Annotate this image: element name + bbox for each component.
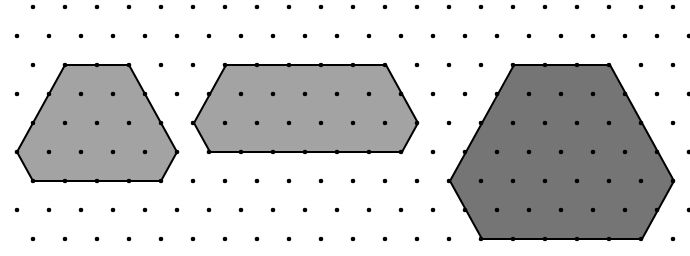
grid-dot (623, 208, 628, 213)
grid-dot (511, 179, 516, 184)
grid-dot (15, 150, 20, 155)
grid-dot (335, 150, 340, 155)
grid-dot (239, 208, 244, 213)
grid-dot (383, 63, 388, 68)
grid-dot (47, 208, 52, 213)
grid-dot (527, 150, 532, 155)
grid-dot (255, 121, 260, 126)
grid-dot (127, 5, 132, 10)
grid-dot (495, 208, 500, 213)
grid-dot (527, 208, 532, 213)
grid-dot (287, 5, 292, 10)
grid-dot (111, 150, 116, 155)
grid-dot (383, 5, 388, 10)
grid-dot (255, 63, 260, 68)
grid-dot (159, 5, 164, 10)
grid-dot (191, 63, 196, 68)
grid-dot (399, 92, 404, 97)
grid-dot (575, 237, 580, 242)
grid-dot (239, 34, 244, 39)
grid-dot (287, 121, 292, 126)
grid-dot (127, 121, 132, 126)
grid-dot (639, 63, 644, 68)
grid-dot (111, 208, 116, 213)
grid-dot (607, 179, 612, 184)
grid-dot (159, 63, 164, 68)
grid-dot (159, 237, 164, 242)
grid-dot (127, 179, 132, 184)
grid-dot (335, 34, 340, 39)
grid-dot (207, 92, 212, 97)
grid-dot (319, 237, 324, 242)
grid-dot (447, 237, 452, 242)
grid-dot (47, 34, 52, 39)
grid-dot (575, 63, 580, 68)
grid-dot (79, 208, 84, 213)
grid-dot (191, 121, 196, 126)
grid-dot (287, 179, 292, 184)
grid-dot (223, 63, 228, 68)
grid-dot (271, 150, 276, 155)
grid-dot (415, 121, 420, 126)
grid-dot (655, 34, 660, 39)
grid-dot (415, 5, 420, 10)
elongated-hexagon (194, 65, 418, 152)
grid-dot (447, 179, 452, 184)
grid-dot (159, 121, 164, 126)
grid-dot (383, 121, 388, 126)
grid-dot (431, 208, 436, 213)
grid-dot (351, 5, 356, 10)
grid-dot (607, 63, 612, 68)
figure-canvas (0, 0, 690, 256)
grid-dot (367, 208, 372, 213)
grid-dot (31, 5, 36, 10)
grid-dot (511, 121, 516, 126)
grid-dot (95, 237, 100, 242)
grid-dot (319, 121, 324, 126)
grid-dot (431, 34, 436, 39)
grid-dot (15, 34, 20, 39)
grid-dot (623, 150, 628, 155)
grid-dot (495, 92, 500, 97)
grid-dot (15, 92, 20, 97)
grid-dot (63, 179, 68, 184)
grid-dot (543, 63, 548, 68)
grid-dot (319, 63, 324, 68)
grid-dot (383, 237, 388, 242)
grid-dot (191, 5, 196, 10)
grid-dot (351, 63, 356, 68)
grid-dot (95, 121, 100, 126)
grid-dot (543, 179, 548, 184)
grid-dot (303, 150, 308, 155)
grid-dot (623, 92, 628, 97)
grid-dot (239, 92, 244, 97)
grid-dot (95, 179, 100, 184)
grid-dot (95, 63, 100, 68)
grid-dot (431, 92, 436, 97)
grid-dot (335, 208, 340, 213)
grid-dot (559, 34, 564, 39)
grid-dot (479, 179, 484, 184)
grid-dot (591, 150, 596, 155)
grid-dot (671, 63, 676, 68)
grid-dot (63, 63, 68, 68)
grid-dot (431, 150, 436, 155)
grid-dot (575, 179, 580, 184)
grid-dot (575, 5, 580, 10)
grid-dot (671, 179, 676, 184)
grid-dot (159, 179, 164, 184)
grid-dot (111, 92, 116, 97)
grid-dot (639, 5, 644, 10)
grid-dot (511, 63, 516, 68)
grid-dot (303, 34, 308, 39)
grid-dot (223, 5, 228, 10)
grid-dot (31, 179, 36, 184)
grid-dot (143, 208, 148, 213)
grid-dot (479, 237, 484, 242)
grid-dot (351, 179, 356, 184)
grid-dot (399, 150, 404, 155)
grid-dot (223, 237, 228, 242)
grid-dot (175, 150, 180, 155)
grid-dot (655, 208, 660, 213)
grid-dot (79, 92, 84, 97)
